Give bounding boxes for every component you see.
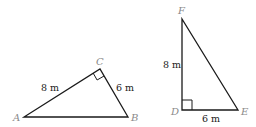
vertex-label-f: F: [177, 5, 186, 16]
vertex-label-b: B: [130, 112, 138, 123]
side-label-ac: 8 m: [41, 82, 59, 93]
side-label-cb: 6 m: [116, 82, 134, 93]
triangle-def: F D E 8 m 6 m: [163, 5, 249, 124]
right-angle-marker-d: [182, 100, 192, 110]
vertex-label-e: E: [240, 106, 249, 117]
side-label-de: 6 m: [202, 113, 220, 124]
triangle-abc: C A B 8 m 6 m: [12, 56, 138, 123]
vertex-label-a: A: [12, 112, 20, 123]
vertex-label-d: D: [170, 106, 179, 117]
diagram-canvas: C A B 8 m 6 m F D E 8 m 6 m: [0, 0, 256, 127]
vertex-label-c: C: [96, 56, 104, 67]
triangle-abc-outline: [24, 69, 128, 117]
triangle-def-outline: [182, 19, 238, 110]
side-label-fd: 8 m: [163, 59, 181, 70]
